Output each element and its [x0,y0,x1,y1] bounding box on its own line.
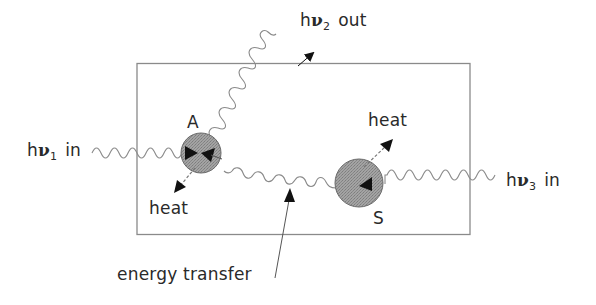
energy-transfer-wave [224,168,336,188]
energy-transfer-pointer [275,200,289,278]
in-word: in [65,140,81,160]
label-photon-in-1: hν1in [27,142,81,162]
subscript-3: 3 [529,180,536,193]
energy-transfer-pointer-arrowhead [284,188,295,202]
planck-h: h [300,10,311,30]
planck-h: h [27,140,38,160]
subscript-1: 1 [50,150,57,163]
label-energy-transfer: energy transfer [117,266,252,283]
photon-out-2-wave [209,31,276,140]
in-word: in [544,170,560,190]
molecule-s [335,159,383,207]
energy-transfer-diagram: hν1in hν2out hν3in A S heat heat energy … [0,0,596,305]
out-word: out [338,10,366,30]
nu-symbol: ν [311,10,323,30]
subscript-2: 2 [323,20,330,33]
label-photon-in-3: hν3in [506,172,560,192]
photon-in-3-wave [385,170,495,184]
planck-h: h [506,170,517,190]
label-photon-out-2: hν2out [300,12,367,32]
heat-a-arrowhead [174,180,186,193]
label-molecule-s: S [373,210,384,227]
nu-symbol: ν [38,140,50,160]
label-heat-a: heat [149,200,188,217]
label-heat-s: heat [368,112,407,129]
label-molecule-a: A [187,114,199,131]
nu-symbol: ν [517,170,529,190]
heat-s-arrowhead [380,139,393,152]
